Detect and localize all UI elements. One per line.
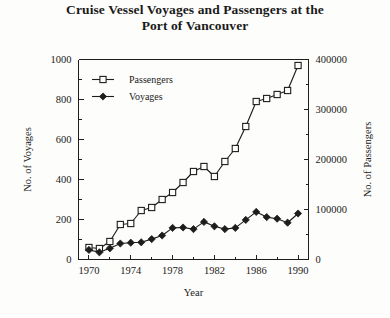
chart-title-line-2: Port of Vancouver: [0, 18, 390, 34]
data-point-passengers: [264, 95, 270, 101]
series-passengers: [86, 62, 301, 251]
x-axis-title: Year: [184, 287, 204, 298]
y-tick-label: 600: [56, 134, 72, 145]
data-point-passengers: [190, 168, 196, 174]
chart-legend: PassengersVoyages: [92, 74, 173, 102]
data-point-passengers: [149, 204, 155, 210]
data-point-passengers: [284, 87, 290, 93]
x-tick-label: 1990: [288, 265, 309, 276]
data-point-passengers: [117, 221, 123, 227]
series-voyages: [85, 208, 301, 256]
data-point-passengers: [253, 98, 259, 104]
y2-tick-label: 200000: [316, 154, 348, 165]
data-point-passengers: [159, 196, 165, 202]
data-point-voyages: [263, 214, 270, 221]
data-point-voyages: [148, 236, 155, 243]
chart-title: Cruise Vessel Voyages and Passengers at …: [0, 2, 390, 34]
x-tick-label: 1974: [120, 265, 142, 276]
legend-label: Passengers: [129, 74, 173, 85]
x-tick-label: 1986: [246, 265, 267, 276]
legend-item-voyages: Voyages: [92, 91, 163, 102]
data-point-voyages: [138, 239, 145, 246]
y-tick-label: 400: [56, 174, 72, 185]
y-tick-label: 1000: [51, 54, 72, 65]
y-tick-label: 200: [56, 214, 72, 225]
chart-title-line-1: Cruise Vessel Voyages and Passengers at …: [0, 2, 390, 18]
data-point-voyages: [179, 224, 186, 231]
data-point-passengers: [232, 145, 238, 151]
data-point-passengers: [107, 238, 113, 244]
data-point-voyages: [117, 240, 124, 247]
chart-figure: Cruise Vessel Voyages and Passengers at …: [0, 0, 390, 318]
y2-tick-label: 100000: [316, 204, 348, 215]
y-tick-label: 800: [56, 94, 72, 105]
data-point-passengers: [169, 189, 175, 195]
legend-label: Voyages: [129, 91, 163, 102]
data-point-voyages: [200, 218, 207, 225]
data-point-passengers: [180, 179, 186, 185]
data-point-passengers: [138, 207, 144, 213]
data-point-passengers: [222, 158, 228, 164]
data-point-voyages: [274, 215, 281, 222]
x-tick-label: 1978: [162, 265, 183, 276]
data-point-passengers: [211, 173, 217, 179]
data-point-voyages: [127, 239, 134, 246]
y2-tick-label: 300000: [316, 104, 348, 115]
x-tick-label: 1970: [78, 265, 99, 276]
data-point-passengers: [128, 220, 134, 226]
y-axis-title: No. of Voyages: [22, 127, 33, 192]
data-point-passengers: [295, 62, 301, 68]
data-point-passengers: [201, 163, 207, 169]
data-point-voyages: [211, 223, 218, 230]
y2-tick-label: 0: [316, 254, 321, 265]
legend-marker-passengers: [100, 76, 106, 82]
legend-item-passengers: Passengers: [92, 74, 173, 85]
data-point-voyages: [106, 245, 113, 252]
y2-axis-title: No. of Passengers: [362, 122, 373, 198]
y2-tick-label: 400000: [316, 54, 348, 65]
data-point-voyages: [221, 226, 228, 233]
legend-marker-voyages: [99, 93, 106, 100]
data-series-group: [85, 62, 301, 256]
chart-plot-area: 0200400600800100001000002000003000004000…: [0, 0, 390, 318]
y-tick-label: 0: [66, 254, 71, 265]
data-point-passengers: [243, 123, 249, 129]
data-point-voyages: [190, 226, 197, 233]
data-point-passengers: [274, 91, 280, 97]
tick-labels-group: 0200400600800100001000002000003000004000…: [51, 54, 348, 275]
x-tick-label: 1982: [204, 265, 225, 276]
